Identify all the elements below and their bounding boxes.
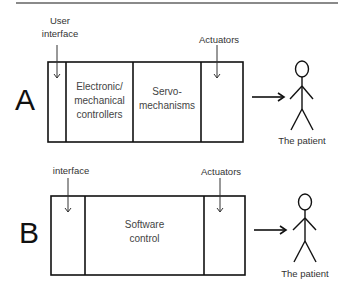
- cell-line: Electronic/: [66, 80, 133, 94]
- panel-b-actuators-label: Actuators: [198, 165, 244, 178]
- panel-b-letter: B: [19, 218, 39, 248]
- panel-b-patient-figure: [293, 194, 316, 262]
- panel-a-patient-label: The patient: [272, 134, 332, 147]
- panel-a-letter: A: [15, 85, 35, 115]
- label-line: User: [37, 14, 83, 27]
- panel-a-actuators-label: Actuators: [196, 33, 242, 46]
- cell-line: controllers: [66, 108, 133, 122]
- label-line: interface: [37, 27, 83, 40]
- panel-b-cell-software-control: Software control: [85, 218, 204, 246]
- panel-a-cell-controllers: Electronic/ mechanical controllers: [66, 80, 133, 122]
- panel-b-interface-label: interface: [48, 164, 94, 177]
- cell-line: Servo-: [133, 85, 201, 99]
- cell-line: Software: [85, 218, 204, 232]
- panel-b-patient-label: The patient: [275, 267, 335, 280]
- panel-b-output-arrow: [254, 226, 286, 234]
- cell-line: mechanical: [66, 94, 133, 108]
- cell-line: control: [85, 232, 204, 246]
- panel-a-output-arrow: [252, 93, 284, 101]
- panel-b-pointer-arrows: [65, 178, 223, 212]
- cell-line: mechanisms: [133, 99, 201, 113]
- panel-a-patient-figure: [290, 61, 313, 130]
- panel-a-user-interface-label: User interface: [37, 14, 83, 40]
- panel-a-cell-servomechanisms: Servo- mechanisms: [133, 85, 201, 113]
